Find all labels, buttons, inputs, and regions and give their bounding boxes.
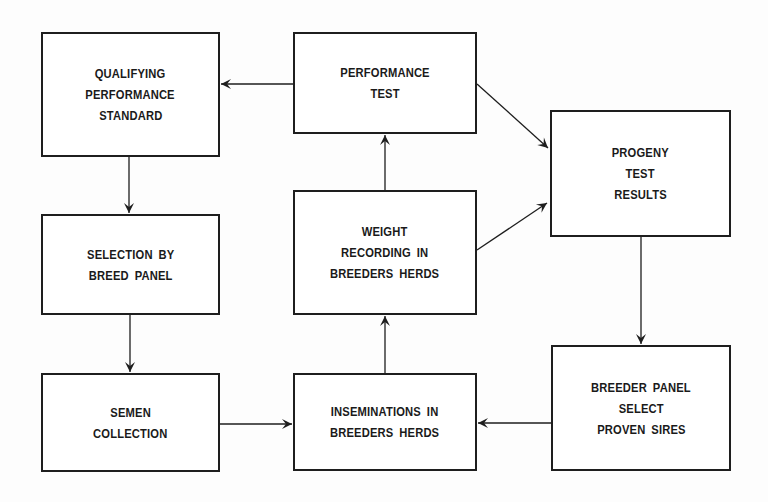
node-label-line: BREEDER PANEL [591, 377, 691, 398]
node-label-line: STANDARD [99, 105, 162, 126]
arrowhead-icon [537, 138, 548, 148]
node-performance-test: PERFORMANCE TEST [293, 32, 477, 134]
node-inseminations-in-breeders-herds: INSEMINATIONS IN BREEDERS HERDS [293, 373, 477, 471]
node-label-line: SELECT [618, 398, 663, 419]
node-label-line: SELECTION BY [87, 244, 174, 265]
node-label-line: BREED PANEL [89, 265, 173, 286]
node-label-line: PROVEN SIRES [597, 419, 686, 440]
node-label-line: INSEMINATIONS IN [331, 401, 439, 422]
node-label-line: RESULTS [614, 184, 667, 205]
node-weight-recording: WEIGHT RECORDING IN BREEDERS HERDS [293, 190, 477, 315]
arrowhead-icon [380, 135, 390, 145]
node-label-line: BREEDERS HERDS [330, 263, 439, 284]
node-label-line: PERFORMANCE [86, 84, 175, 105]
node-label-line: PROGENY [612, 142, 669, 163]
arrow-weight-to-progeny [477, 203, 547, 250]
arrowhead-icon [124, 203, 134, 213]
arrowhead-icon [380, 316, 390, 326]
arrow-performance_test-to-progeny [477, 84, 548, 148]
node-selection-by-breed-panel: SELECTION BY BREED PANEL [41, 214, 220, 315]
node-label-line: SEMEN [110, 402, 151, 423]
arrowhead-icon [478, 418, 488, 428]
node-label-line: PERFORMANCE [340, 62, 429, 83]
node-progeny-test-results: PROGENY TEST RESULTS [550, 110, 731, 237]
node-label-line: QUALIFYING [95, 63, 166, 84]
node-label-line: BREEDERS HERDS [330, 422, 439, 443]
arrowhead-icon [125, 362, 135, 372]
node-label-line: RECORDING IN [341, 242, 428, 263]
arrowhead-icon [636, 334, 646, 344]
arrowhead-icon [282, 419, 292, 429]
node-label-line: TEST [370, 83, 399, 104]
flowchart-diagram: QUALIFYING PERFORMANCE STANDARD PERFORMA… [0, 0, 768, 502]
node-qualifying-performance-standard: QUALIFYING PERFORMANCE STANDARD [41, 32, 220, 157]
arrowhead-icon [536, 203, 547, 213]
node-label-line: WEIGHT [362, 221, 408, 242]
node-label-line: TEST [626, 163, 655, 184]
node-semen-collection: SEMEN COLLECTION [41, 373, 220, 472]
node-breeder-panel-select-proven-sires: BREEDER PANEL SELECT PROVEN SIRES [551, 345, 731, 471]
arrowhead-icon [221, 79, 231, 89]
node-label-line: COLLECTION [93, 423, 167, 444]
